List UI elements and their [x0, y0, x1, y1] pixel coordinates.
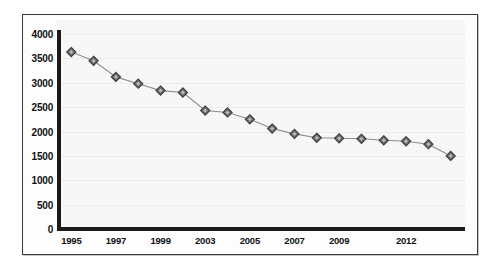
series-markers [67, 47, 456, 160]
series-line [71, 52, 450, 156]
line-chart: 05001000150020002500300035004000 1995199… [23, 15, 479, 256]
chart-figure-frame: 05001000150020002500300035004000 1995199… [22, 14, 478, 255]
data-series [23, 15, 479, 256]
